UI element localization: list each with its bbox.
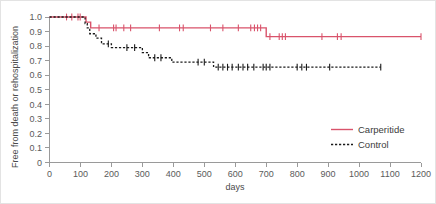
series-layer [50, 14, 422, 71]
legend: Carperitide Control [331, 124, 404, 150]
x-tick-label: 800 [290, 169, 305, 179]
y-tick-label: 0.1 [29, 143, 42, 153]
x-tick-label: 300 [135, 169, 150, 179]
y-tick-label: 0 [37, 158, 42, 168]
y-tick-label: 0.8 [29, 41, 42, 51]
y-tick-label: 0.2 [29, 129, 42, 139]
x-tick-label: 1100 [380, 169, 399, 179]
y-tick-label: 0.7 [29, 56, 42, 66]
y-axis-title: Free from death or rehospitalization [10, 26, 20, 168]
y-tick-label: 0.5 [29, 85, 42, 95]
x-tick-label: 1000 [349, 169, 369, 179]
kaplan-meier-plot: 00.10.20.30.40.50.60.70.80.91.0 01002003… [1, 1, 436, 204]
x-tick-label: 200 [104, 169, 119, 179]
x-tick-label: 500 [197, 169, 212, 179]
chart-figure: 00.10.20.30.40.50.60.70.80.91.0 01002003… [0, 0, 436, 204]
x-axis-title: days [225, 182, 245, 192]
y-tick-label: 0.4 [29, 100, 42, 110]
y-tick-label: 0.3 [29, 114, 42, 124]
legend-label-carperitide: Carperitide [358, 124, 404, 135]
curve-carperitide [50, 17, 422, 37]
y-tick-label: 0.6 [29, 70, 42, 80]
legend-item-carperitide[interactable]: Carperitide [331, 124, 404, 135]
y-tick-label: 0.9 [29, 27, 42, 37]
y-axis-ticks: 00.10.20.30.40.50.60.70.80.91.0 [29, 12, 49, 168]
x-tick-label: 400 [166, 169, 181, 179]
x-tick-label: 1200 [411, 169, 431, 179]
x-tick-label: 900 [321, 169, 336, 179]
x-tick-label: 700 [259, 169, 274, 179]
x-tick-label: 600 [228, 169, 243, 179]
x-tick-label: 0 [47, 169, 52, 179]
x-axis-ticks: 0100200300400500600700800900100011001200 [47, 163, 431, 180]
x-tick-label: 100 [73, 169, 88, 179]
y-tick-label: 1.0 [29, 12, 42, 22]
series-carperitide [50, 14, 422, 40]
legend-label-control: Control [358, 139, 389, 150]
legend-item-control[interactable]: Control [331, 139, 389, 150]
